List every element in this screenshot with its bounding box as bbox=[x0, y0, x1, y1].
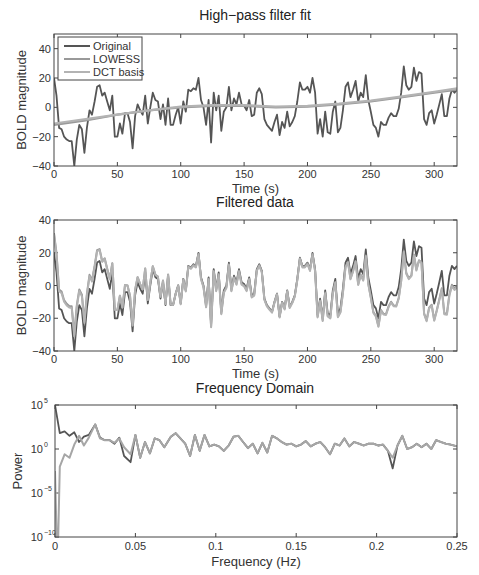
y-tick-label: 0 bbox=[45, 280, 51, 292]
x-tick-label: 100 bbox=[172, 168, 190, 180]
x-tick-label: 0.2 bbox=[369, 540, 384, 552]
legend-label: DCT basis bbox=[93, 66, 145, 78]
legend-label: LOWESS bbox=[93, 53, 140, 65]
x-tick-label: 0.1 bbox=[208, 540, 223, 552]
y-tick-label: 10 bbox=[31, 443, 43, 455]
x-tick-label: 300 bbox=[425, 353, 443, 365]
y-tick-label: −40 bbox=[32, 345, 51, 357]
series-line-original bbox=[55, 405, 457, 468]
y-tick-label: −20 bbox=[32, 131, 51, 143]
y-tick-exponent: 0 bbox=[44, 441, 48, 448]
x-tick-label: 100 bbox=[172, 353, 190, 365]
x-tick-label: 0.25 bbox=[446, 540, 467, 552]
y-tick-label: 40 bbox=[39, 214, 51, 226]
panel-frequency-domain: Frequency Domain 00.050.10.150.20.2510−1… bbox=[10, 380, 468, 569]
figure: High−pass filter fit 050100150200250300−… bbox=[0, 0, 479, 575]
y-tick-exponent: 5 bbox=[44, 397, 48, 404]
panel-filtered-data: Filtered data 050100150200250300−40−2002… bbox=[14, 194, 457, 381]
plot-frame bbox=[55, 405, 457, 537]
x-axis-label: Time (s) bbox=[232, 366, 279, 381]
x-tick-label: 250 bbox=[362, 353, 380, 365]
legend: OriginalLOWESSDCT basis bbox=[58, 37, 145, 80]
y-tick-exponent: −10 bbox=[44, 529, 56, 536]
y-axis-label: BOLD magnitude bbox=[14, 50, 29, 150]
x-axis-label: Frequency (Hz) bbox=[211, 554, 301, 569]
y-tick-label: 20 bbox=[39, 247, 51, 259]
plot-lines bbox=[55, 405, 457, 537]
x-tick-label: 0.15 bbox=[285, 540, 306, 552]
y-axis-label: BOLD magnitude bbox=[14, 236, 29, 336]
x-tick-label: 0 bbox=[51, 353, 57, 365]
x-tick-label: 0.05 bbox=[125, 540, 146, 552]
series-line-filtered bbox=[55, 424, 457, 537]
panel-highpass-fit: High−pass filter fit 050100150200250300−… bbox=[14, 7, 457, 196]
x-tick-label: 300 bbox=[425, 168, 443, 180]
y-tick-label: 20 bbox=[39, 72, 51, 84]
y-axis-label: Power bbox=[10, 452, 25, 490]
x-tick-label: 200 bbox=[298, 353, 316, 365]
panel-title: Frequency Domain bbox=[196, 380, 314, 396]
series-line-dct-filtered bbox=[54, 235, 457, 336]
plot-lines bbox=[54, 233, 457, 351]
y-tick-label: −40 bbox=[32, 160, 51, 172]
x-tick-label: 50 bbox=[111, 353, 123, 365]
y-tick-label: −20 bbox=[32, 312, 51, 324]
y-tick-label: 40 bbox=[39, 43, 51, 55]
y-tick-label: 10 bbox=[31, 487, 43, 499]
x-tick-label: 200 bbox=[298, 168, 316, 180]
panel-title: Filtered data bbox=[216, 194, 294, 210]
figure-canvas: High−pass filter fit 050100150200250300−… bbox=[0, 0, 479, 575]
x-tick-label: 150 bbox=[235, 168, 253, 180]
legend-label: Original bbox=[93, 40, 131, 52]
y-tick-label: 10 bbox=[31, 531, 43, 543]
x-tick-label: 0 bbox=[52, 540, 58, 552]
y-tick-label: 0 bbox=[45, 101, 51, 113]
x-tick-label: 250 bbox=[362, 168, 380, 180]
x-tick-label: 150 bbox=[235, 353, 253, 365]
x-tick-label: 0 bbox=[51, 168, 57, 180]
panel-title: High−pass filter fit bbox=[199, 7, 311, 23]
axis-ticks: 00.050.10.150.20.2510−1010−5100105 bbox=[31, 397, 468, 552]
y-tick-exponent: −5 bbox=[44, 485, 52, 492]
plot-lines bbox=[54, 66, 457, 166]
x-tick-label: 50 bbox=[111, 168, 123, 180]
y-tick-label: 10 bbox=[31, 399, 43, 411]
